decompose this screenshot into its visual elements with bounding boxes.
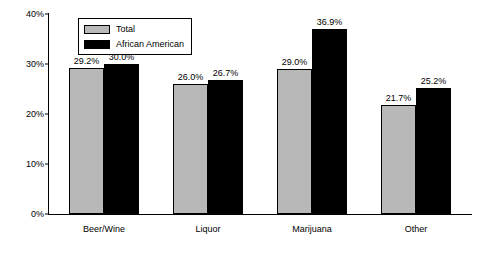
y-tick-mark: [45, 164, 49, 165]
y-tick-mark: [45, 14, 49, 15]
bar-total-liquor: 26.0%: [173, 84, 208, 214]
x-tick-label-beer-wine: Beer/Wine: [83, 224, 125, 234]
bar-label-african-american-marijuana: 36.9%: [317, 17, 343, 27]
bar-label-african-american-beer-wine: 30.0%: [109, 52, 135, 62]
bar-total-other: 21.7%: [381, 105, 416, 214]
y-tick-label-0: 0%: [31, 209, 44, 219]
y-tick-mark: [45, 114, 49, 115]
y-tick-label-2: 20%: [26, 109, 44, 119]
bar-label-total-beer-wine: 29.2%: [74, 56, 100, 66]
y-tick-mark: [45, 64, 49, 65]
x-tick-label-liquor: Liquor: [195, 224, 220, 234]
y-tick-label-3: 30%: [26, 59, 44, 69]
bar-african-american-other: 25.2%: [416, 88, 451, 214]
y-tick-label-1: 10%: [26, 159, 44, 169]
bar-total-beer-wine: 29.2%: [69, 68, 104, 214]
bar-total-marijuana: 29.0%: [277, 69, 312, 214]
bar-african-american-beer-wine: 30.0%: [104, 64, 139, 214]
bar-african-american-liquor: 26.7%: [208, 80, 243, 214]
x-tick-label-other: Other: [405, 224, 428, 234]
x-tick-label-marijuana: Marijuana: [292, 224, 332, 234]
bar-african-american-marijuana: 36.9%: [312, 29, 347, 214]
bar-label-total-liquor: 26.0%: [178, 72, 204, 82]
bar-label-total-other: 21.7%: [386, 93, 412, 103]
bar-label-african-american-other: 25.2%: [421, 76, 447, 86]
bar-chart: Total African American 0% 10% 20% 30%: [0, 0, 489, 261]
bar-label-african-american-liquor: 26.7%: [213, 68, 239, 78]
y-tick-mark: [45, 214, 49, 215]
plot-area: 0% 10% 20% 30% 40% 29.2% 30.0%: [48, 13, 472, 215]
y-tick-label-4: 40%: [26, 9, 44, 19]
bar-label-total-marijuana: 29.0%: [282, 57, 308, 67]
